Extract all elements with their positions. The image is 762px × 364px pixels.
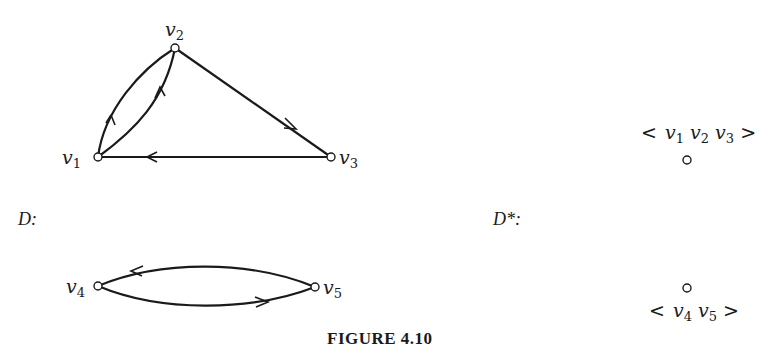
node-v5 xyxy=(311,283,319,291)
label-v4: v4 xyxy=(66,275,85,300)
condensation-d-star: D*: < v1 v2 v3 > < v4 v5 > xyxy=(492,121,756,325)
node-v1 xyxy=(94,153,102,161)
graph-label-d-star: D*: xyxy=(492,209,521,229)
edge-v2-v3 xyxy=(175,48,331,157)
graph-label-d: D: xyxy=(17,209,37,229)
edge-v4-v5 xyxy=(98,286,315,307)
node-component-v1v2v3 xyxy=(683,156,691,164)
node-v4 xyxy=(94,282,102,290)
digraph-d: v1 v2 v3 v4 v5 D: xyxy=(17,18,358,307)
label-component-v4v5: < v4 v5 > xyxy=(649,299,739,325)
figure-4-10: v1 v2 v3 v4 v5 D: D*: < v1 v2 v3 > xyxy=(0,0,762,364)
label-v2: v2 xyxy=(165,18,184,43)
figure-caption: FIGURE 4.10 xyxy=(327,329,433,348)
label-v3: v3 xyxy=(339,146,358,171)
edge-v5-v4 xyxy=(98,266,315,287)
node-v3 xyxy=(327,153,335,161)
edge-v2-v1 xyxy=(98,48,175,157)
node-component-v4v5 xyxy=(683,284,691,292)
label-v1: v1 xyxy=(62,146,81,171)
edge-v1-v2 xyxy=(98,48,175,157)
node-v2 xyxy=(171,44,179,52)
edge-v3-v1 xyxy=(98,152,331,162)
label-component-v1v2v3: < v1 v2 v3 > xyxy=(641,121,756,147)
label-v5: v5 xyxy=(323,276,342,301)
